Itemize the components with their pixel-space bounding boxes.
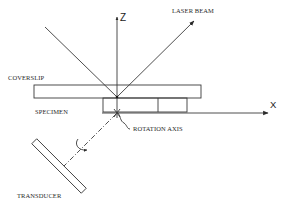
z-axis: Z <box>117 12 126 118</box>
reflected-beam-line <box>117 21 194 97</box>
transducer: TRANSDUCER <box>17 139 86 199</box>
incident-beam-line <box>45 27 117 97</box>
transducer-label: TRANSDUCER <box>17 192 62 199</box>
coverslip: COVERSLIP <box>8 74 201 98</box>
specimen-label: SPECIMEN <box>35 108 68 115</box>
rotation-axis-leader <box>118 113 130 129</box>
laser-beam: LASER BEAM <box>117 7 214 97</box>
focal-point <box>116 96 119 99</box>
specimen-rect <box>103 98 187 112</box>
ultrasound-laser-setup-diagram: Z LASER BEAM COVERSLIP SPECIMEN X ROTATI… <box>0 0 282 211</box>
rotation-axis: ROTATION AXIS <box>118 113 183 132</box>
specimen: SPECIMEN <box>35 98 187 115</box>
acoustic-axis-line <box>64 114 116 166</box>
rotation-axis-label: ROTATION AXIS <box>133 125 183 132</box>
x-axis: X <box>102 99 277 113</box>
x-axis-label: X <box>270 99 277 110</box>
laser-beam-label: LASER BEAM <box>172 7 214 14</box>
coverslip-label: COVERSLIP <box>8 74 45 81</box>
z-axis-label: Z <box>120 12 126 23</box>
